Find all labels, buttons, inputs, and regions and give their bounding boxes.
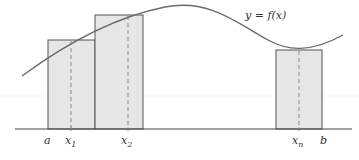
curve-label: y = f(x) <box>244 9 286 22</box>
label-x2: x2 <box>121 134 132 149</box>
rectangles <box>48 15 322 129</box>
point-x2 <box>126 127 129 130</box>
label-b: b <box>320 134 327 147</box>
label-a: a <box>44 134 51 147</box>
riemann-sum-diagram: y = f(x) a x1 x2 xn b <box>0 0 359 160</box>
label-x1: x1 <box>65 134 76 149</box>
rect-2 <box>95 15 143 129</box>
label-xn: xn <box>292 134 303 149</box>
point-xn <box>297 127 300 130</box>
point-x1 <box>69 127 72 130</box>
